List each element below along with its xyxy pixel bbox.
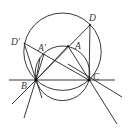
segment-ac-extended [68, 46, 117, 124]
segment-aprime-b-extended [24, 54, 44, 118]
point-b [34, 78, 37, 81]
point-a [67, 45, 69, 47]
geometry-diagram: D D′ A′ A B C [0, 0, 132, 137]
label-b: B [21, 81, 27, 91]
label-a-prime: A′ [37, 43, 47, 53]
point-d [89, 24, 91, 26]
point-c [87, 78, 90, 81]
label-d: D [88, 13, 96, 23]
label-a: A [74, 41, 81, 51]
label-d-prime: D′ [10, 37, 21, 47]
label-c: C [93, 72, 100, 82]
